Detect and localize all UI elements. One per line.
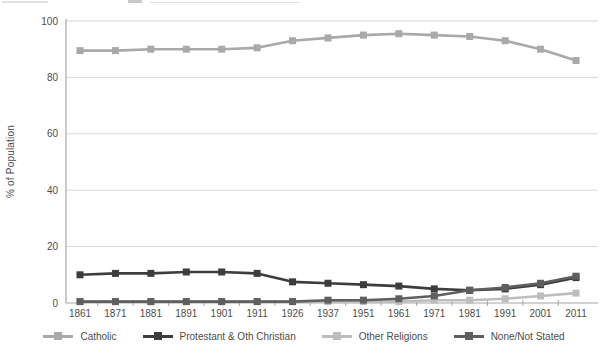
data-point-marker	[77, 47, 84, 54]
data-point-marker	[466, 33, 473, 40]
data-point-marker	[573, 57, 580, 64]
data-point-marker	[254, 298, 261, 305]
data-point-marker	[466, 287, 473, 294]
data-point-marker	[183, 298, 190, 305]
data-point-marker	[77, 298, 84, 305]
legend-label: Other Religions	[359, 331, 428, 342]
x-tick-label: 1971	[423, 308, 446, 319]
x-tick-label: 1871	[104, 308, 127, 319]
data-point-marker	[112, 270, 119, 277]
y-tick-label: 60	[47, 128, 59, 139]
data-point-marker	[573, 290, 580, 297]
data-point-marker	[431, 292, 438, 299]
data-point-marker	[537, 292, 544, 299]
data-point-marker	[289, 37, 296, 44]
data-point-marker	[537, 280, 544, 287]
x-tick-label: 1926	[281, 308, 304, 319]
legend-marker-icon	[454, 335, 484, 338]
legend-item-protestant-oth-christian: Protestant & Oth Christian	[143, 331, 296, 342]
data-point-marker	[112, 47, 119, 54]
data-point-marker	[502, 295, 509, 302]
legend-label: Catholic	[80, 331, 116, 342]
data-point-marker	[147, 270, 154, 277]
data-point-marker	[289, 278, 296, 285]
y-tick-label: 0	[52, 298, 58, 309]
x-tick-label: 1881	[140, 308, 163, 319]
data-point-marker	[183, 268, 190, 275]
data-point-marker	[466, 297, 473, 304]
data-point-marker	[360, 32, 367, 39]
data-point-marker	[218, 268, 225, 275]
legend-square-icon	[154, 332, 162, 340]
data-point-marker	[289, 298, 296, 305]
legend-item-catholic: Catholic	[43, 331, 116, 342]
x-tick-label: 2001	[529, 308, 552, 319]
legend-item-other-religions: Other Religions	[322, 331, 428, 342]
x-tick-label: 1991	[494, 308, 517, 319]
data-point-marker	[325, 280, 332, 287]
data-point-marker	[183, 46, 190, 53]
data-point-marker	[325, 297, 332, 304]
data-point-marker	[254, 44, 261, 51]
x-tick-label: 1951	[352, 308, 375, 319]
data-point-marker	[395, 295, 402, 302]
data-point-marker	[77, 271, 84, 278]
data-point-marker	[360, 281, 367, 288]
chart-legend: CatholicProtestant & Oth ChristianOther …	[0, 331, 608, 342]
y-tick-label: 20	[47, 241, 59, 252]
legend-marker-icon	[322, 335, 352, 338]
data-point-marker	[254, 270, 261, 277]
data-point-marker	[573, 273, 580, 280]
x-tick-label: 1911	[246, 308, 268, 319]
data-point-marker	[395, 283, 402, 290]
data-point-marker	[502, 284, 509, 291]
legend-square-icon	[54, 332, 62, 340]
x-tick-label: 1961	[388, 308, 411, 319]
y-tick-label: 40	[47, 185, 59, 196]
x-tick-label: 1891	[175, 308, 198, 319]
data-point-marker	[502, 37, 509, 44]
chart-figure: % of Population 020406080100186118711881…	[0, 0, 608, 356]
data-point-marker	[431, 285, 438, 292]
data-point-marker	[147, 46, 154, 53]
data-point-marker	[218, 46, 225, 53]
legend-label: Protestant & Oth Christian	[180, 331, 296, 342]
x-tick-label: 1981	[459, 308, 482, 319]
data-point-marker	[431, 32, 438, 39]
legend-marker-icon	[43, 335, 73, 338]
x-tick-label: 1861	[69, 308, 92, 319]
data-point-marker	[537, 46, 544, 53]
legend-square-icon	[333, 332, 341, 340]
x-tick-label: 1937	[317, 308, 340, 319]
data-point-marker	[147, 298, 154, 305]
data-point-marker	[325, 34, 332, 41]
chart-plot-area: 0204060801001861187118811891190119111926…	[0, 0, 608, 356]
x-tick-label: 1901	[211, 308, 234, 319]
x-tick-label: 2011	[565, 308, 587, 319]
legend-label: None/Not Stated	[491, 331, 565, 342]
data-point-marker	[218, 298, 225, 305]
y-tick-label: 100	[41, 16, 58, 27]
legend-square-icon	[465, 332, 473, 340]
y-tick-label: 80	[47, 72, 59, 83]
data-point-marker	[112, 298, 119, 305]
data-point-marker	[395, 30, 402, 37]
legend-marker-icon	[143, 335, 173, 338]
legend-item-none-not-stated: None/Not Stated	[454, 331, 565, 342]
data-point-marker	[360, 297, 367, 304]
